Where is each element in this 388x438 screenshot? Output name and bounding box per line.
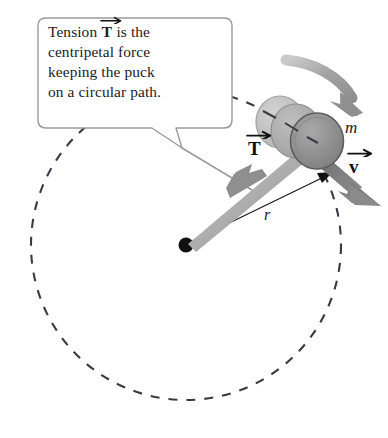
tension-vector-inline-letter: T — [102, 23, 112, 40]
velocity-vector-label: v — [349, 156, 359, 178]
tension-vector-label: T — [248, 138, 261, 160]
velocity-vector-label-wrap: v — [349, 157, 359, 176]
tension-vector-inline: T — [101, 22, 112, 42]
vector-arrow-overbar-icon — [246, 130, 273, 139]
vector-arrow-overbar-icon — [347, 148, 374, 157]
tension-vector-label-letter: T — [248, 138, 261, 159]
callout-line-1-pre: Tension — [48, 23, 101, 40]
callout-line-2: centripetal force — [48, 42, 228, 62]
radius-label: r — [264, 206, 270, 224]
velocity-vector-label-letter: v — [349, 156, 359, 177]
puck-front-disc — [291, 113, 344, 169]
callout-line-3: keeping the puck — [48, 62, 228, 82]
physics-diagram-canvas: Tension T is the centripetal force keepi… — [0, 0, 388, 438]
mass-label: m — [345, 118, 357, 138]
callout-text-block: Tension T is the centripetal force keepi… — [48, 22, 228, 102]
callout-line-1: Tension T is the — [48, 22, 228, 42]
tension-vector-label-wrap: T — [248, 139, 261, 158]
callout-line-1-post: is the — [113, 23, 150, 40]
callout-line-4: on a circular path. — [48, 82, 228, 102]
